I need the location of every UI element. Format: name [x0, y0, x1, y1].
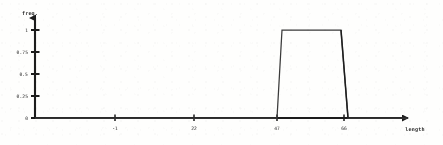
y-tick-label-0: 0: [25, 116, 28, 121]
y-tick-label-05: 0.5: [19, 72, 28, 77]
x-tick-label--1: -1: [112, 126, 118, 131]
x-tick-label-22: 22: [191, 126, 197, 131]
y-tick-label-1: 1: [25, 28, 28, 33]
x-axis-title: length: [405, 126, 424, 133]
y-tick-label-075: 0.75: [17, 50, 29, 55]
y-axis-title: freq.: [22, 10, 38, 17]
x-tick-label-47: 47: [274, 126, 280, 131]
x-tick-label-66: 66: [341, 126, 347, 131]
data-curve-freq: [35, 30, 408, 118]
y-tick-label-025: 0.25: [17, 94, 29, 99]
chart-figure: freq. 1 0.75 0.5 0.25 0 -1 22 47 66 leng…: [0, 0, 443, 145]
data-curve-right-edge: [341, 30, 348, 118]
plot-svg: freq. 1 0.75 0.5 0.25 0 -1 22 47 66 leng…: [0, 0, 443, 145]
